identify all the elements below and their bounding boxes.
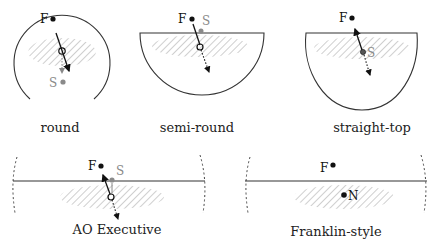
- bifocal-segment-diagram: F S round S F semi-round S F straight-to…: [0, 0, 440, 247]
- point-label-s: S: [367, 46, 375, 60]
- point-f: [349, 15, 354, 20]
- point-s: [60, 79, 65, 84]
- point-label-s: S: [202, 14, 210, 28]
- panel-label: straight-top: [333, 120, 411, 135]
- point-label-f: F: [40, 12, 48, 26]
- lens-edge-left: [246, 157, 250, 213]
- point-s: [199, 29, 204, 34]
- point-s: [109, 177, 114, 182]
- point-label-s: S: [116, 164, 124, 178]
- panel-round: F S round: [14, 12, 110, 135]
- point-label-n: N: [348, 189, 359, 203]
- point-f: [189, 16, 194, 21]
- hatched-zone: [152, 35, 248, 57]
- point-s: [360, 49, 365, 54]
- panel-straight-top: S F straight-top: [306, 11, 418, 135]
- lens-edge-left: [13, 157, 17, 213]
- lens-edge-right: [421, 155, 426, 213]
- panel-ao-executive: S F AO Executive: [13, 155, 205, 237]
- panel-label: AO Executive: [72, 222, 162, 237]
- panel-label: Franklin-style: [290, 224, 382, 239]
- lens-edge-right: [200, 155, 205, 213]
- panel-semi-round: S F semi-round: [140, 12, 264, 135]
- panel-franklin-style: F N Franklin-style: [245, 155, 427, 239]
- point-label-f: F: [339, 11, 347, 25]
- panel-label: round: [40, 120, 79, 135]
- point-label-f: F: [178, 12, 186, 26]
- point-f: [98, 163, 103, 168]
- point-f: [50, 16, 55, 21]
- point-label-s: S: [49, 76, 57, 90]
- point-label-f: F: [320, 161, 328, 175]
- point-n: [341, 192, 347, 198]
- point-label-f: F: [88, 159, 96, 173]
- panel-label: semi-round: [160, 120, 234, 135]
- point-f: [330, 162, 335, 167]
